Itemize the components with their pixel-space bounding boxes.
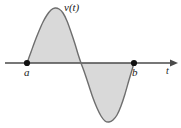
- function-plot-figure: v(t) a b t: [0, 0, 181, 128]
- function-label: v(t): [64, 2, 79, 13]
- upper-limit-label-b: b: [132, 67, 138, 78]
- plot-canvas: [0, 0, 181, 128]
- t-axis-label: t: [166, 66, 169, 76]
- t-axis-arrowhead: [170, 59, 178, 66]
- shaded-area-under-curve: [27, 8, 134, 122]
- lower-limit-label-a: a: [24, 67, 30, 78]
